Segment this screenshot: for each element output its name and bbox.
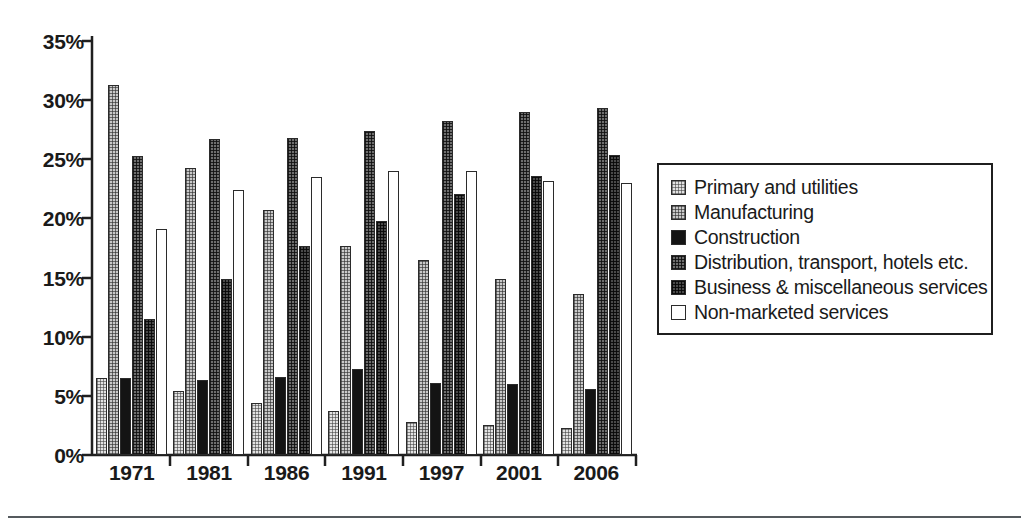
chart-figure: 35% 30% 25% 20% 15% 10% 5% 0% 1971 1981 … xyxy=(0,0,1029,530)
x-tick-1971: 1971 xyxy=(93,462,170,496)
y-tick-25: 25% xyxy=(22,149,84,170)
bar-1997-series-4 xyxy=(454,194,465,455)
bar-1997-series-5 xyxy=(466,171,477,455)
bar-2006-series-3 xyxy=(597,108,608,455)
bar-1991-series-0 xyxy=(328,411,339,455)
bar-1986-series-1 xyxy=(263,210,274,455)
bar-1971-series-2 xyxy=(120,378,131,455)
bar-2001-series-3 xyxy=(519,112,530,455)
y-tick-5: 5% xyxy=(22,386,84,407)
legend-item-primary-and-utilities: Primary and utilities xyxy=(671,175,991,200)
bar-1991-series-5 xyxy=(388,171,399,455)
bottom-divider xyxy=(8,516,1021,518)
bar-2006-series-5 xyxy=(621,183,632,455)
bar-1986-series-5 xyxy=(311,177,322,455)
legend-label: Construction xyxy=(694,228,800,248)
legend-label: Business & miscellaneous services xyxy=(694,278,988,298)
chart-legend: Primary and utilities Manufacturing Cons… xyxy=(657,163,993,335)
bars-layer xyxy=(93,41,635,455)
bar-2006-series-0 xyxy=(561,428,572,455)
bar-1971-series-0 xyxy=(96,378,107,455)
x-tick-1997: 1997 xyxy=(403,462,480,496)
y-tick-20: 20% xyxy=(22,208,84,229)
bar-1981-series-2 xyxy=(197,380,208,455)
bar-1986-series-3 xyxy=(287,138,298,455)
bar-1991-series-4 xyxy=(376,221,387,455)
bar-1971-series-4 xyxy=(144,319,155,455)
legend-item-construction: Construction xyxy=(671,225,991,250)
legend-item-non-marketed-services: Non-marketed services xyxy=(671,300,991,325)
bar-2006-series-4 xyxy=(609,155,620,455)
bar-group-2001 xyxy=(480,41,557,455)
y-tick-0: 0% xyxy=(22,445,84,466)
legend-swatch-icon xyxy=(671,205,686,220)
legend-item-distribution-transport-hotels: Distribution, transport, hotels etc. xyxy=(671,250,991,275)
y-tick-15: 15% xyxy=(22,268,84,289)
legend-label: Manufacturing xyxy=(694,203,814,223)
bar-group-1991 xyxy=(325,41,402,455)
legend-label: Non-marketed services xyxy=(694,303,888,323)
bar-group-1997 xyxy=(403,41,480,455)
legend-swatch-icon xyxy=(671,305,686,320)
bar-2001-series-4 xyxy=(531,176,542,455)
legend-item-business-and-miscellaneous-services: Business & miscellaneous services xyxy=(671,275,991,300)
legend-label: Primary and utilities xyxy=(694,178,858,198)
bar-group-1971 xyxy=(93,41,170,455)
bar-1997-series-0 xyxy=(406,422,417,455)
legend-label: Distribution, transport, hotels etc. xyxy=(694,253,968,273)
bar-group-2006 xyxy=(558,41,635,455)
bar-1986-series-0 xyxy=(251,403,262,455)
x-tick-2001: 2001 xyxy=(480,462,557,496)
bar-1981-series-0 xyxy=(173,391,184,455)
bar-1981-series-1 xyxy=(185,168,196,455)
bar-1971-series-1 xyxy=(108,85,119,455)
bar-1991-series-1 xyxy=(340,246,351,455)
bar-1986-series-2 xyxy=(275,377,286,455)
legend-swatch-icon xyxy=(671,280,686,295)
legend-item-manufacturing: Manufacturing xyxy=(671,200,991,225)
bar-2001-series-1 xyxy=(495,279,506,455)
legend-swatch-icon xyxy=(671,255,686,270)
x-tick-1981: 1981 xyxy=(170,462,247,496)
bar-1986-series-4 xyxy=(299,246,310,455)
y-tick-10: 10% xyxy=(22,327,84,348)
bar-2006-series-1 xyxy=(573,294,584,455)
bar-1981-series-3 xyxy=(209,139,220,455)
legend-swatch-icon xyxy=(671,180,686,195)
bar-1997-series-1 xyxy=(418,260,429,455)
legend-swatch-icon xyxy=(671,230,686,245)
x-tick-1991: 1991 xyxy=(325,462,402,496)
bar-group-1981 xyxy=(170,41,247,455)
x-axis-tick-labels: 1971 1981 1986 1991 1997 2001 2006 xyxy=(93,462,635,496)
bar-1991-series-2 xyxy=(352,369,363,455)
x-tick-2006: 2006 xyxy=(558,462,635,496)
bar-2001-series-5 xyxy=(543,181,554,455)
plot-area: 35% 30% 25% 20% 15% 10% 5% 0% 1971 1981 … xyxy=(0,0,680,500)
y-tick-35: 35% xyxy=(22,31,84,52)
bar-1971-series-3 xyxy=(132,156,143,455)
bar-1997-series-3 xyxy=(442,121,453,455)
bar-2001-series-0 xyxy=(483,425,494,455)
y-axis-tick-labels: 35% 30% 25% 20% 15% 10% 5% 0% xyxy=(22,0,84,500)
bar-1997-series-2 xyxy=(430,383,441,455)
x-tick-1986: 1986 xyxy=(248,462,325,496)
bar-1981-series-4 xyxy=(221,279,232,455)
bar-2006-series-2 xyxy=(585,389,596,455)
y-tick-30: 30% xyxy=(22,90,84,111)
bar-1991-series-3 xyxy=(364,131,375,455)
bar-2001-series-2 xyxy=(507,384,518,455)
bar-group-1986 xyxy=(248,41,325,455)
bar-1981-series-5 xyxy=(233,190,244,455)
bar-1971-series-5 xyxy=(156,229,167,455)
